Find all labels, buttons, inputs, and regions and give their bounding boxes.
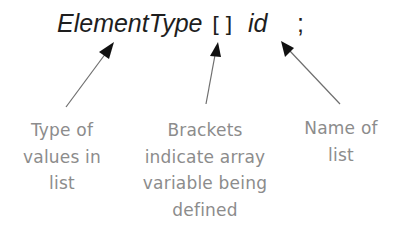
caption-line: Brackets <box>135 117 275 144</box>
caption-line: list <box>12 170 112 197</box>
caption-line: values in <box>12 144 112 171</box>
caption-line: Name of <box>296 115 386 142</box>
arrow-to-element-type <box>66 42 114 107</box>
caption-brackets: Brackets indicate array variable being d… <box>135 117 275 223</box>
caption-line: indicate array <box>135 144 275 171</box>
arrow-to-identifier <box>281 41 340 104</box>
caption-line: variable being <box>135 170 275 197</box>
caption-identifier: Name of list <box>296 115 386 168</box>
arrow-to-brackets <box>206 42 221 104</box>
caption-line: defined <box>135 197 275 224</box>
caption-element-type: Type of values in list <box>12 117 112 197</box>
caption-line: Type of <box>12 117 112 144</box>
caption-line: list <box>296 142 386 169</box>
